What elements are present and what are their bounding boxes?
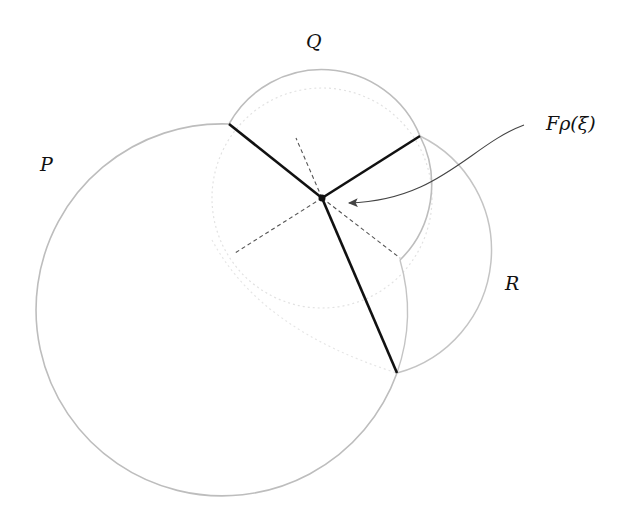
edge-bottom — [322, 198, 397, 373]
circle-r-arc — [397, 136, 491, 373]
circle-q-arc — [229, 70, 432, 260]
label-p: P — [40, 153, 53, 175]
edge-upper-right — [322, 136, 420, 198]
edge-upper-left — [229, 124, 322, 198]
circle-p-inner-arc — [397, 260, 407, 373]
label-f-rho-xi: Fρ(ξ) — [546, 112, 596, 134]
label-r: R — [505, 272, 519, 294]
center-point — [319, 195, 326, 202]
dashed-line-down-left — [235, 198, 322, 253]
circle-p-arc — [36, 124, 397, 496]
voronoi-diagram — [0, 0, 638, 519]
label-q: Q — [306, 30, 322, 52]
